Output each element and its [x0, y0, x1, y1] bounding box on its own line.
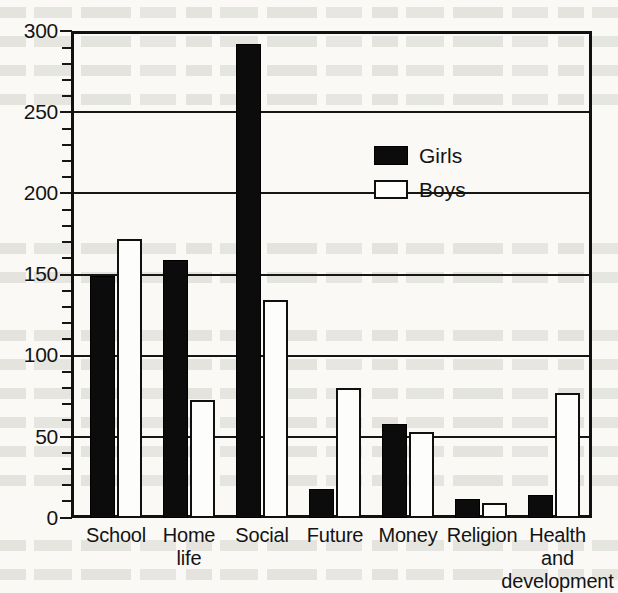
legend-swatch-girls-icon [374, 146, 408, 165]
bar-boys-homelife[interactable] [190, 400, 215, 518]
y-tick-label-0: 0 [2, 507, 58, 528]
bar-boys-social[interactable] [263, 300, 288, 518]
bar-boys-future[interactable] [336, 388, 361, 518]
y-tick-label-100: 100 [2, 344, 58, 365]
legend-label-boys: Boys [419, 179, 466, 200]
bar-girls-school[interactable] [90, 276, 115, 518]
plot-area [71, 31, 592, 518]
bar-chart: 300 250 200 150 100 50 0 [0, 0, 618, 593]
y-tick-label-150: 150 [2, 263, 58, 284]
x-label-homelife-line-2: life [139, 547, 239, 570]
y-tick-label-300: 300 [2, 20, 58, 41]
y-tick-label-250: 250 [2, 101, 58, 122]
x-label-health-line-2: and [497, 547, 618, 570]
x-label-health-line-1: Health [497, 524, 618, 547]
bar-boys-school[interactable] [117, 239, 142, 518]
bar-girls-social[interactable] [236, 44, 261, 518]
bar-boys-health[interactable] [555, 393, 580, 518]
bar-boys-religion[interactable] [482, 503, 507, 518]
bar-girls-health[interactable] [528, 495, 553, 518]
x-label-health-line-3: development [497, 570, 618, 593]
bar-girls-homelife[interactable] [163, 260, 188, 518]
legend-item-girls[interactable]: Girls [374, 142, 466, 169]
y-tick-label-50: 50 [2, 426, 58, 447]
x-label-health: Health and development [497, 524, 618, 593]
legend-item-boys[interactable]: Boys [374, 176, 466, 203]
y-tick-label-200: 200 [2, 182, 58, 203]
bar-girls-religion[interactable] [455, 499, 480, 518]
chart-legend: Girls Boys [374, 142, 466, 210]
legend-swatch-boys-icon [374, 180, 408, 199]
bar-girls-future[interactable] [309, 489, 334, 518]
bar-boys-money[interactable] [409, 432, 434, 518]
legend-label-girls: Girls [419, 145, 462, 166]
bar-girls-money[interactable] [382, 424, 407, 518]
